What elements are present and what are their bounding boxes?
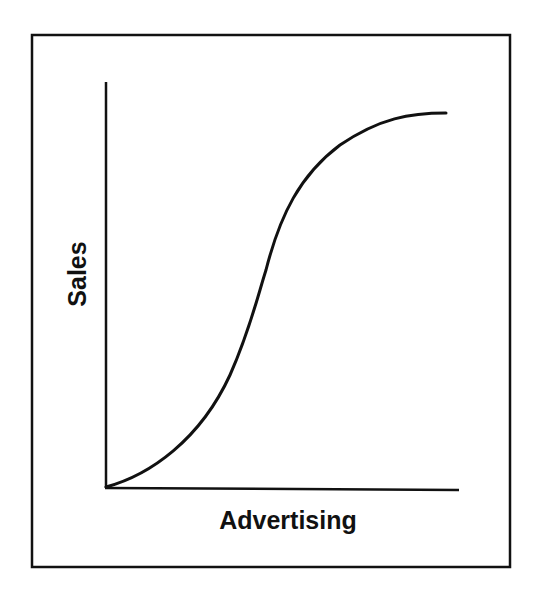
sales-curve xyxy=(106,113,446,487)
y-axis-label: Sales xyxy=(63,241,91,306)
chart-frame xyxy=(32,35,510,567)
x-axis-label: Advertising xyxy=(219,506,357,534)
x-axis xyxy=(105,488,459,490)
chart-canvas: Advertising Sales xyxy=(0,0,541,594)
